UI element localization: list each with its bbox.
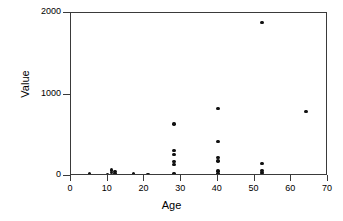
x-tick-label: 20: [128, 184, 158, 193]
data-point: [113, 170, 116, 173]
data-point: [172, 153, 175, 156]
data-point: [172, 172, 175, 174]
x-tick-label: 60: [275, 184, 305, 193]
y-tick: [63, 175, 70, 176]
x-tick-label: 10: [92, 184, 122, 193]
x-tick: [70, 175, 71, 181]
y-tick-label: 1000: [21, 89, 61, 98]
data-point: [216, 107, 219, 110]
data-point: [260, 21, 263, 24]
data-point: [172, 122, 175, 125]
x-tick: [254, 175, 255, 181]
x-tick-label: 50: [239, 184, 269, 193]
data-point: [216, 140, 219, 143]
y-tick-label: 2000: [21, 7, 61, 16]
data-point: [172, 149, 175, 152]
x-tick: [107, 175, 108, 181]
data-point: [172, 163, 175, 166]
data-point: [260, 162, 263, 165]
data-point: [146, 173, 149, 174]
y-tick: [63, 12, 70, 13]
x-tick: [143, 175, 144, 181]
x-tick-label: 70: [312, 184, 342, 193]
data-point: [132, 172, 135, 174]
x-tick: [180, 175, 181, 181]
data-point: [216, 159, 219, 162]
x-tick-label: 40: [202, 184, 232, 193]
data-point: [260, 173, 263, 174]
y-axis-title: Value: [19, 54, 31, 114]
scatter-chart: Value 010002000 010203040506070 Age: [0, 0, 343, 221]
x-tick: [290, 175, 291, 181]
data-points-layer: [71, 13, 326, 174]
x-tick-label: 0: [55, 184, 85, 193]
x-tick: [217, 175, 218, 181]
data-point: [304, 110, 307, 113]
x-tick-label: 30: [165, 184, 195, 193]
y-tick: [63, 94, 70, 95]
data-point: [88, 172, 91, 174]
x-tick: [327, 175, 328, 181]
x-axis-title: Age: [0, 199, 343, 211]
y-axis: Value 010002000: [12, 0, 61, 221]
plot-area: [70, 12, 327, 175]
data-point: [216, 172, 219, 174]
data-point: [106, 173, 109, 174]
y-tick-label: 0: [21, 170, 61, 179]
